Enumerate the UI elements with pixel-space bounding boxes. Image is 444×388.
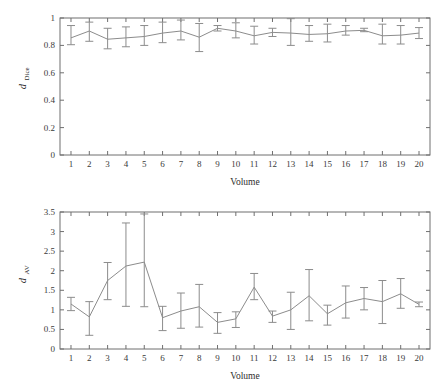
error-bar bbox=[67, 26, 75, 45]
x-tick-label: 7 bbox=[179, 353, 184, 363]
error-bar bbox=[140, 214, 148, 307]
x-tick-label: 9 bbox=[215, 353, 220, 363]
x-tick-label: 1 bbox=[69, 159, 74, 169]
error-bar bbox=[378, 281, 386, 324]
x-tick-label: 18 bbox=[378, 159, 388, 169]
x-tick-label: 7 bbox=[179, 159, 184, 169]
x-tick-label: 10 bbox=[231, 353, 241, 363]
x-tick-label: 16 bbox=[341, 159, 351, 169]
series-line bbox=[71, 262, 419, 322]
error-bar bbox=[195, 284, 203, 327]
x-tick-label: 5 bbox=[142, 159, 147, 169]
y-tick-label: 0.6 bbox=[44, 68, 56, 78]
x-tick-label: 5 bbox=[142, 353, 147, 363]
x-tick-label: 9 bbox=[215, 159, 220, 169]
x-tick-label: 20 bbox=[415, 353, 425, 363]
error-bar bbox=[104, 262, 112, 299]
x-tick-label: 15 bbox=[323, 159, 333, 169]
y-axis-title-base: d bbox=[17, 277, 28, 283]
y-tick-label: 3.5 bbox=[44, 207, 56, 217]
x-tick-label: 2 bbox=[87, 353, 92, 363]
y-tick-label: 0.5 bbox=[44, 324, 56, 334]
x-tick-label: 3 bbox=[105, 353, 110, 363]
y-axis-title-subscript: Dice bbox=[23, 67, 31, 80]
y-axis-title: dAV bbox=[17, 265, 31, 283]
x-tick-label: 20 bbox=[415, 159, 425, 169]
y-tick-label: 0.4 bbox=[44, 95, 56, 105]
chart-svg-dice: 00.20.40.60.8112345678910111213141516171… bbox=[0, 0, 444, 194]
error-bar bbox=[122, 27, 130, 47]
error-bar bbox=[250, 273, 258, 299]
x-tick-label: 8 bbox=[197, 353, 202, 363]
error-bar bbox=[67, 297, 75, 310]
x-tick-label: 6 bbox=[160, 159, 165, 169]
x-tick-label: 17 bbox=[360, 159, 370, 169]
chart-svg-av: 00.511.522.533.5123456789101112131415161… bbox=[0, 194, 444, 388]
error-bar bbox=[378, 24, 386, 44]
x-tick-label: 19 bbox=[396, 159, 406, 169]
x-tick-label: 17 bbox=[360, 353, 370, 363]
x-tick-label: 4 bbox=[124, 159, 129, 169]
x-axis-title: Volume bbox=[230, 177, 259, 187]
x-tick-label: 11 bbox=[250, 159, 259, 169]
error-bar bbox=[268, 311, 276, 322]
x-tick-label: 16 bbox=[341, 353, 351, 363]
y-tick-label: 0 bbox=[51, 344, 56, 354]
y-tick-label: 1 bbox=[51, 13, 56, 23]
y-tick-label: 1.5 bbox=[44, 285, 56, 295]
error-bar bbox=[397, 279, 405, 309]
x-tick-label: 2 bbox=[87, 159, 92, 169]
error-bar bbox=[177, 20, 185, 40]
error-bar bbox=[195, 23, 203, 51]
x-tick-label: 13 bbox=[286, 159, 296, 169]
error-bar bbox=[122, 223, 130, 306]
error-bar bbox=[214, 313, 222, 334]
x-tick-label: 12 bbox=[268, 353, 277, 363]
y-tick-label: 0.8 bbox=[44, 40, 56, 50]
x-tick-label: 14 bbox=[305, 353, 315, 363]
error-bar bbox=[323, 305, 331, 325]
x-axis-title: Volume bbox=[230, 371, 259, 381]
x-tick-label: 15 bbox=[323, 353, 333, 363]
y-tick-label: 1 bbox=[51, 305, 56, 315]
x-tick-label: 6 bbox=[160, 353, 165, 363]
plot-frame bbox=[60, 212, 430, 349]
x-tick-label: 11 bbox=[250, 353, 259, 363]
x-tick-label: 3 bbox=[105, 159, 110, 169]
x-tick-label: 13 bbox=[286, 353, 296, 363]
y-tick-label: 2 bbox=[51, 266, 56, 276]
error-bar bbox=[287, 19, 295, 46]
x-tick-label: 4 bbox=[124, 353, 129, 363]
y-tick-label: 2.5 bbox=[44, 246, 56, 256]
series-line bbox=[71, 28, 419, 39]
x-tick-label: 1 bbox=[69, 353, 74, 363]
x-tick-label: 12 bbox=[268, 159, 277, 169]
x-tick-label: 14 bbox=[305, 159, 315, 169]
y-axis-title-base: d bbox=[17, 83, 28, 89]
figure-container: 00.20.40.60.8112345678910111213141516171… bbox=[0, 0, 444, 388]
chart-panel-dice: 00.20.40.60.8112345678910111213141516171… bbox=[0, 0, 444, 194]
error-bar bbox=[85, 302, 93, 336]
error-bar bbox=[305, 270, 313, 321]
x-tick-label: 19 bbox=[396, 353, 406, 363]
y-axis-title-subscript: AV bbox=[23, 265, 31, 274]
error-bar bbox=[342, 26, 350, 36]
x-tick-label: 18 bbox=[378, 353, 388, 363]
x-tick-label: 10 bbox=[231, 159, 241, 169]
chart-panel-av: 00.511.522.533.5123456789101112131415161… bbox=[0, 194, 444, 388]
y-tick-label: 0 bbox=[51, 150, 56, 160]
y-tick-label: 3 bbox=[51, 227, 56, 237]
y-tick-label: 0.2 bbox=[44, 123, 55, 133]
x-tick-label: 8 bbox=[197, 159, 202, 169]
error-bar bbox=[305, 26, 313, 42]
y-axis-title: dDice bbox=[17, 67, 31, 89]
